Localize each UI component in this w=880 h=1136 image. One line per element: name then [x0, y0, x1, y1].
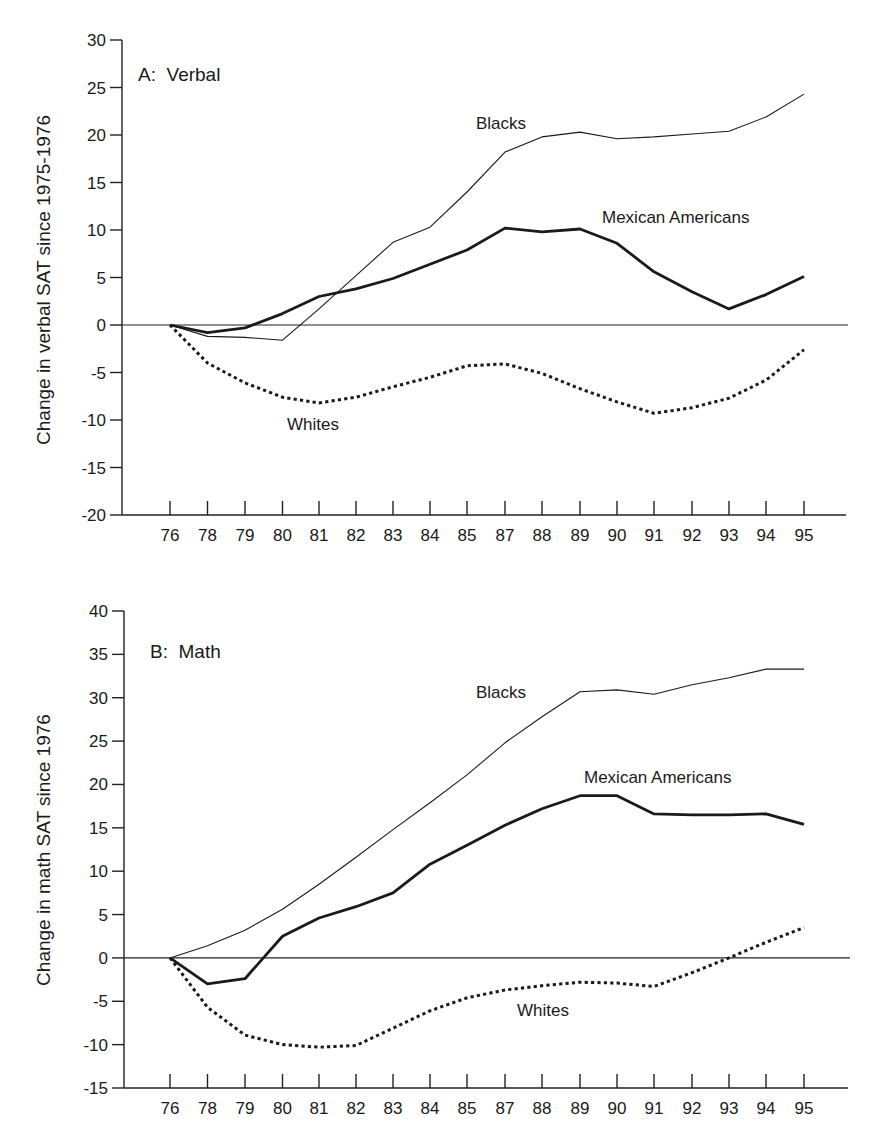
y-tick-label: 15 — [87, 174, 106, 193]
y-tick-label: -5 — [93, 992, 108, 1011]
x-tick-label: 90 — [608, 1099, 627, 1118]
y-tick-label: -15 — [81, 459, 106, 478]
x-tick-label: 94 — [757, 526, 776, 545]
panel-title-math: B: Math — [150, 641, 221, 662]
y-tick-label: 40 — [89, 602, 108, 621]
y-tick-label: 25 — [89, 732, 108, 751]
y-tick-label: -10 — [83, 1036, 108, 1055]
x-tick-label: 76 — [161, 1099, 180, 1118]
series-line-mexican-americans — [170, 228, 804, 333]
x-tick-label: 78 — [198, 1099, 217, 1118]
panel-verbal: 302520151050-5-10-15-20 7678798081828384… — [33, 31, 848, 545]
x-tick-label: 84 — [421, 526, 440, 545]
x-tick-label: 93 — [720, 526, 739, 545]
x-tick-label: 89 — [571, 526, 590, 545]
y-tick-label: -20 — [81, 506, 106, 525]
y-tick-label: -5 — [91, 364, 106, 383]
x-tick-label: 82 — [347, 526, 366, 545]
x-axis-math: 767879808182838485878889909192939495 — [124, 1074, 848, 1118]
y-tick-label: 0 — [97, 316, 106, 335]
series-label-whites-verbal: Whites — [287, 415, 339, 434]
x-tick-label: 95 — [795, 1099, 814, 1118]
y-tick-label: -10 — [81, 411, 106, 430]
series-label-blacks-verbal: Blacks — [476, 114, 526, 133]
y-tick-label: 20 — [89, 775, 108, 794]
y-tick-label: 20 — [87, 126, 106, 145]
x-tick-label: 94 — [757, 1099, 776, 1118]
x-axis-verbal: 767879808182838485878889909192939495 — [122, 501, 846, 545]
y-tick-label: 25 — [87, 79, 106, 98]
x-tick-label: 93 — [720, 1099, 739, 1118]
sat-change-figure: 302520151050-5-10-15-20 7678798081828384… — [0, 0, 880, 1136]
x-tick-label: 79 — [236, 1099, 255, 1118]
y-tick-label: 15 — [89, 819, 108, 838]
x-tick-label: 84 — [421, 1099, 440, 1118]
y-tick-label: 5 — [99, 906, 108, 925]
x-tick-label: 85 — [458, 526, 477, 545]
x-tick-label: 92 — [683, 1099, 702, 1118]
x-tick-label: 91 — [645, 526, 664, 545]
x-tick-label: 90 — [608, 526, 627, 545]
x-tick-label: 92 — [683, 526, 702, 545]
series-line-whites — [170, 325, 804, 413]
series-label-whites-math: Whites — [517, 1001, 569, 1020]
y-tick-label: -15 — [83, 1079, 108, 1098]
x-tick-label: 95 — [795, 526, 814, 545]
series-line-whites — [170, 928, 804, 1048]
panel-title-verbal: A: Verbal — [138, 64, 220, 85]
y-tick-label: 10 — [87, 221, 106, 240]
series-label-mexican-americans-verbal: Mexican Americans — [602, 208, 749, 227]
series-label-mexican-americans-math: Mexican Americans — [584, 768, 731, 787]
series-line-mexican-americans — [170, 796, 804, 984]
x-tick-label: 80 — [273, 526, 292, 545]
x-tick-label: 80 — [273, 1099, 292, 1118]
series-label-blacks-math: Blacks — [476, 683, 526, 702]
x-tick-label: 91 — [645, 1099, 664, 1118]
x-tick-label: 87 — [496, 1099, 515, 1118]
x-tick-label: 88 — [533, 526, 552, 545]
y-tick-label: 35 — [89, 645, 108, 664]
x-tick-label: 89 — [571, 1099, 590, 1118]
x-tick-label: 82 — [347, 1099, 366, 1118]
y-tick-label: 0 — [99, 949, 108, 968]
plot-lines-verbal — [122, 94, 848, 413]
y-tick-label: 30 — [89, 689, 108, 708]
y-axis-title-math: Change in math SAT since 1976 — [33, 714, 54, 986]
x-tick-label: 85 — [458, 1099, 477, 1118]
y-tick-label: 5 — [97, 269, 106, 288]
y-axis-verbal: 302520151050-5-10-15-20 — [81, 31, 122, 525]
x-tick-label: 81 — [310, 526, 329, 545]
x-tick-label: 76 — [161, 526, 180, 545]
y-axis-math: 4035302520151050-5-10-15 — [83, 602, 124, 1098]
y-tick-label: 10 — [89, 862, 108, 881]
x-tick-label: 88 — [533, 1099, 552, 1118]
y-tick-label: 30 — [87, 31, 106, 50]
x-tick-label: 78 — [198, 526, 217, 545]
panel-math: 4035302520151050-5-10-15 767879808182838… — [33, 602, 850, 1118]
plot-lines-math — [124, 669, 850, 1047]
y-axis-title-verbal: Change in verbal SAT since 1975-1976 — [33, 115, 54, 445]
x-tick-label: 81 — [310, 1099, 329, 1118]
x-tick-label: 83 — [384, 526, 403, 545]
x-tick-label: 87 — [496, 526, 515, 545]
x-tick-label: 79 — [236, 526, 255, 545]
x-tick-label: 83 — [384, 1099, 403, 1118]
